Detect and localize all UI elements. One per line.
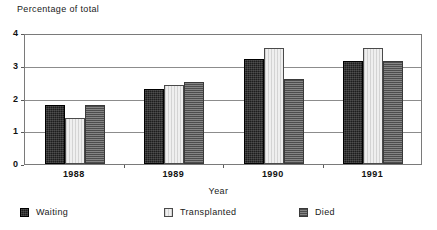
y-axis-tick-label: 1 — [6, 127, 18, 136]
bar-died-1989 — [184, 82, 204, 164]
legend-swatch-icon — [164, 208, 173, 217]
y-axis-tick-mark — [21, 132, 24, 133]
y-axis-tick-label: 4 — [6, 29, 18, 38]
x-axis-category-label: 1990 — [223, 169, 323, 179]
x-axis-tick-mark — [124, 165, 125, 168]
bar-transplanted-1989 — [164, 85, 184, 164]
bar-chart: Percentage of total 01234 19881989199019… — [0, 0, 437, 230]
bar-transplanted-1990 — [264, 48, 284, 164]
x-axis-category-label: 1988 — [24, 169, 124, 179]
y-axis-tick-label: 3 — [6, 62, 18, 71]
x-axis-tick-mark — [223, 165, 224, 168]
bar-transplanted-1988 — [65, 118, 85, 164]
bar-waiting-1989 — [144, 89, 164, 164]
chart-legend: WaitingTransplantedDied — [0, 205, 437, 221]
y-axis-tick-label: 0 — [6, 160, 18, 169]
plot-area — [24, 34, 422, 165]
bar-waiting-1991 — [343, 61, 363, 164]
bar-died-1988 — [85, 105, 105, 164]
bar-waiting-1988 — [45, 105, 65, 164]
legend-label: Transplanted — [180, 207, 236, 217]
y-axis-tick-mark — [21, 34, 24, 35]
y-axis-tick-mark — [21, 165, 24, 166]
x-axis-tick-mark — [323, 165, 324, 168]
legend-swatch-icon — [20, 208, 29, 217]
y-axis-tick-mark — [21, 100, 24, 101]
bar-layer — [25, 35, 421, 164]
legend-label: Waiting — [36, 207, 68, 217]
y-axis-tick-label: 2 — [6, 95, 18, 104]
chart-title: Percentage of total — [17, 4, 99, 14]
legend-item-waiting[interactable]: Waiting — [20, 205, 68, 219]
legend-swatch-icon — [299, 208, 308, 217]
legend-item-died[interactable]: Died — [299, 205, 335, 219]
legend-label: Died — [315, 207, 335, 217]
bar-waiting-1990 — [244, 59, 264, 164]
legend-item-transplanted[interactable]: Transplanted — [164, 205, 236, 219]
x-axis-category-label: 1989 — [124, 169, 224, 179]
bar-died-1991 — [383, 61, 403, 164]
bar-died-1990 — [284, 79, 304, 164]
bar-transplanted-1991 — [363, 48, 383, 164]
y-axis-tick-mark — [21, 67, 24, 68]
x-axis-title: Year — [0, 186, 437, 196]
x-axis-category-label: 1991 — [323, 169, 423, 179]
